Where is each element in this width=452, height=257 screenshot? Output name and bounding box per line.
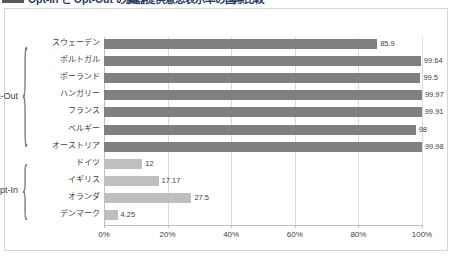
bar-row[interactable]: 12	[104, 159, 422, 169]
bar-オランダ[interactable]	[104, 193, 191, 203]
category-label-ハンガリー: ハンガリー	[32, 89, 100, 99]
bar-スウェーデン[interactable]	[104, 39, 377, 49]
category-label-イギリス: イギリス	[32, 175, 100, 185]
bar-デンマーク[interactable]	[104, 210, 118, 220]
bar-row[interactable]: 99.5	[104, 73, 422, 83]
bar-オーストリア[interactable]	[104, 142, 422, 152]
bar-ハンガリー[interactable]	[104, 90, 422, 100]
legend-swatch-icon	[2, 0, 24, 3]
bar-value-label: 4.25	[121, 208, 136, 221]
bar-ポルトガル[interactable]	[104, 56, 421, 66]
bar-value-label: 99.64	[424, 54, 443, 67]
bar-ベルギー[interactable]	[104, 125, 416, 135]
bar-フランス[interactable]	[104, 107, 422, 117]
category-label-フランス: フランス	[32, 106, 100, 116]
category-label-ポルトガル: ポルトガル	[32, 55, 100, 65]
bar-value-label: 99.98	[425, 140, 444, 153]
bar-row[interactable]: 4.25	[104, 210, 422, 220]
x-tick-mark-40	[231, 225, 232, 228]
x-tick-mark-20	[168, 225, 169, 228]
category-label-オーストリア: オーストリア	[32, 141, 100, 151]
x-tick-label-0: 0%	[84, 230, 124, 240]
brace-opt-in: {	[22, 157, 28, 257]
bar-イギリス[interactable]	[104, 176, 159, 186]
bar-value-label: 12	[145, 157, 153, 170]
x-tick-mark-100	[422, 225, 423, 228]
x-axis-line	[104, 225, 423, 226]
category-label-ベルギー: ベルギー	[32, 124, 100, 134]
bar-row[interactable]: 99.98	[104, 142, 422, 152]
bar-row[interactable]: 98	[104, 125, 422, 135]
bar-value-label: 98	[419, 123, 427, 136]
x-tick-label-40: 40%	[211, 230, 251, 240]
category-label-ポーランド: ポーランド	[32, 72, 100, 82]
category-label-デンマーク: デンマーク	[32, 209, 100, 219]
chart-container: 85.9スウェーデン99.64ポルトガル99.5ポーランド99.97ハンガリー9…	[4, 8, 448, 251]
bar-row[interactable]: 99.64	[104, 56, 422, 66]
x-tick-label-100: 100%	[402, 230, 442, 240]
bar-ドイツ[interactable]	[104, 159, 142, 169]
category-label-スウェーデン: スウェーデン	[32, 38, 100, 48]
x-tick-label-80: 80%	[338, 230, 378, 240]
bar-row[interactable]: 27.5	[104, 193, 422, 203]
x-tick-label-20: 20%	[148, 230, 188, 240]
category-label-オランダ: オランダ	[32, 192, 100, 202]
bar-ポーランド[interactable]	[104, 73, 420, 83]
category-label-ドイツ: ドイツ	[32, 158, 100, 168]
group-label-opt-in: Opt-In	[0, 185, 18, 195]
x-tick-label-60: 60%	[275, 230, 315, 240]
bar-value-label: 27.5	[194, 191, 209, 204]
x-tick-mark-60	[295, 225, 296, 228]
bar-value-label: 99.97	[425, 88, 444, 101]
bar-value-label: 99.91	[425, 105, 444, 118]
x-tick-mark-80	[358, 225, 359, 228]
bar-row[interactable]: 99.97	[104, 90, 422, 100]
bar-row[interactable]: 85.9	[104, 39, 422, 49]
page-title: Opt-In と Opt-Out の臓器提供意思表示率の国際比較	[28, 0, 264, 6]
group-label-opt-out: Opt-Out	[0, 91, 18, 101]
bar-value-label: 99.5	[423, 71, 438, 84]
bar-value-label: 85.9	[380, 37, 395, 50]
bar-value-label: 17.17	[162, 174, 181, 187]
x-tick-mark-0	[104, 225, 105, 228]
chart-title-bar: Opt-In と Opt-Out の臓器提供意思表示率の国際比較	[0, 0, 452, 7]
bar-row[interactable]: 17.17	[104, 176, 422, 186]
bar-row[interactable]: 99.91	[104, 107, 422, 117]
